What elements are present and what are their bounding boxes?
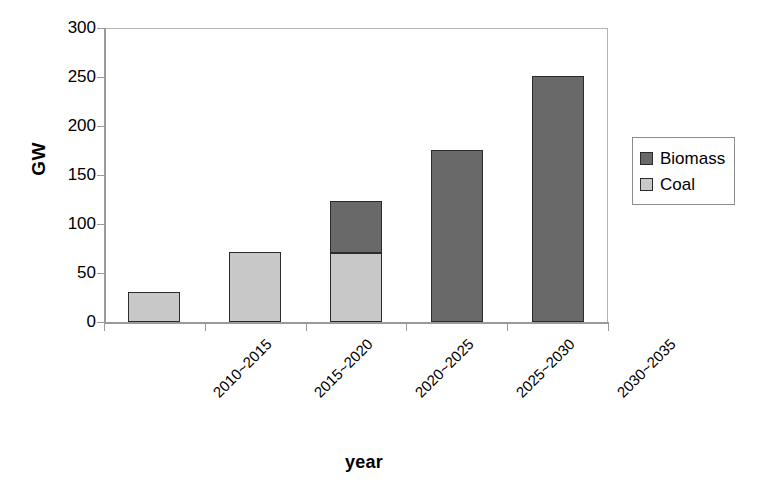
x-tick-mark — [406, 323, 407, 331]
chart-legend: BiomassCoal — [632, 137, 735, 205]
x-tick-label: 2015~2020 — [311, 336, 375, 400]
legend-swatch-icon — [640, 152, 653, 165]
y-tick-mark — [97, 28, 105, 29]
bar-chart: GW 050100150200250300 2010~20152015~2020… — [0, 0, 768, 490]
x-tick-label: 2010~2015 — [211, 336, 275, 400]
legend-item[interactable]: Coal — [640, 171, 725, 197]
x-tick-label: 2020~2025 — [412, 336, 476, 400]
x-axis-tick-labels: 2010~20152015~20202020~20252025~20302030… — [0, 0, 768, 490]
x-tick-mark — [205, 323, 206, 331]
y-tick-mark — [97, 224, 105, 225]
legend-swatch-icon — [640, 178, 653, 191]
x-tick-label: 2030~2035 — [614, 336, 678, 400]
y-tick-mark — [97, 175, 105, 176]
legend-item[interactable]: Biomass — [640, 145, 725, 171]
y-tick-mark — [97, 126, 105, 127]
x-tick-label: 2025~2030 — [513, 336, 577, 400]
x-tick-mark — [306, 323, 307, 331]
x-axis-title: year — [254, 452, 474, 473]
legend-label: Coal — [660, 176, 695, 193]
x-tick-mark — [507, 323, 508, 331]
y-tick-mark — [97, 77, 105, 78]
legend-label: Biomass — [660, 150, 725, 167]
x-tick-mark — [608, 323, 609, 331]
x-tick-mark — [104, 323, 105, 331]
y-tick-mark — [97, 273, 105, 274]
